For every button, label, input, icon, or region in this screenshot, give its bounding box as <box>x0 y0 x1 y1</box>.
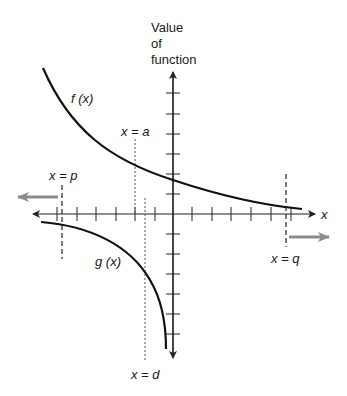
x-axis-label: x <box>320 207 328 222</box>
curve-f-label: f (x) <box>71 91 93 106</box>
x-axis <box>33 207 315 221</box>
curve-g-label: g (x) <box>95 254 121 269</box>
y-axis-label-line1: Value <box>151 20 183 35</box>
curve-g <box>41 222 166 349</box>
y-axis-label-line3: function <box>151 52 197 67</box>
asymptote-q-label: x = q <box>270 251 300 266</box>
asymptote-p-label: x = p <box>48 168 78 183</box>
y-axis-label-line2: of <box>151 36 162 51</box>
y-axis <box>166 72 180 358</box>
function-diagram: Value of function x f (x) g (x) x = p x … <box>0 0 347 396</box>
asymptote-d-label: x = d <box>130 367 160 382</box>
asymptote-a-label: x = a <box>120 124 150 139</box>
